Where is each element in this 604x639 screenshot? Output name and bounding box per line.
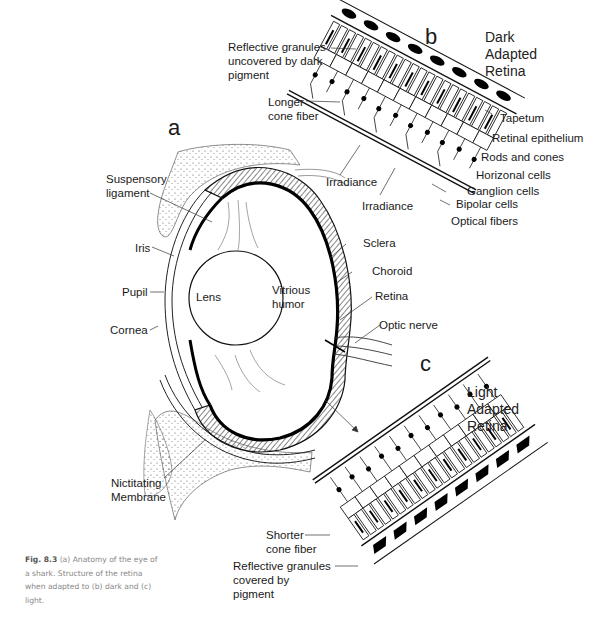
label-optical-fibers: Optical fibers <box>451 214 518 228</box>
light-retina-title: Light Adapted Retina <box>467 384 519 435</box>
label-cornea: Cornea <box>110 323 148 337</box>
label-rods-and-cones: Rods and cones <box>481 150 564 164</box>
label-horizonal-cells: Horizonal cells <box>476 168 551 182</box>
panel-label-b: b <box>425 26 437 48</box>
label-shorter-cone-fiber: Shorter cone fiber <box>266 528 317 556</box>
label-lens: Lens <box>196 290 221 304</box>
panel-label-a: a <box>168 117 180 139</box>
label-ganglion-cells: Ganglion cells <box>467 184 539 198</box>
dark-retina-title: Dark Adapted Retina <box>485 29 537 80</box>
panel-label-c: c <box>420 353 431 375</box>
label-iris: Iris <box>135 241 150 255</box>
label-vitreous-humor: Vitrious humor <box>272 283 310 311</box>
caption-label: Fig. 8.3 <box>25 555 57 564</box>
label-longer-cone-fiber: Longer cone fiber <box>268 95 319 123</box>
label-reflective-granules-covered: Reflective granules covered by pigment <box>233 559 331 601</box>
label-irradiance-1: Irradiance <box>326 175 377 189</box>
label-nictitating-membrane: Nictitating Membrane <box>111 476 166 504</box>
label-choroid: Choroid <box>372 264 412 278</box>
label-sclera: Sclera <box>363 236 396 250</box>
label-retinal-epithelium: Retinal epithelium <box>492 131 583 145</box>
label-tapetum: Tapetum <box>500 111 544 125</box>
label-optic-nerve: Optic nerve <box>379 318 438 332</box>
label-retina: Retina <box>375 289 408 303</box>
figure-caption: Fig. 8.3 (a) Anatomy of the eye of a sha… <box>25 553 160 607</box>
label-pupil: Pupil <box>122 285 148 299</box>
label-reflective-granules-uncovered: Reflective granules uncovered by dark pi… <box>228 40 326 82</box>
label-irradiance-2: Irradiance <box>362 199 413 213</box>
label-bipolar-cells: Bipolar cells <box>456 197 518 211</box>
label-suspensory-ligament: Suspensory ligament <box>106 172 167 200</box>
